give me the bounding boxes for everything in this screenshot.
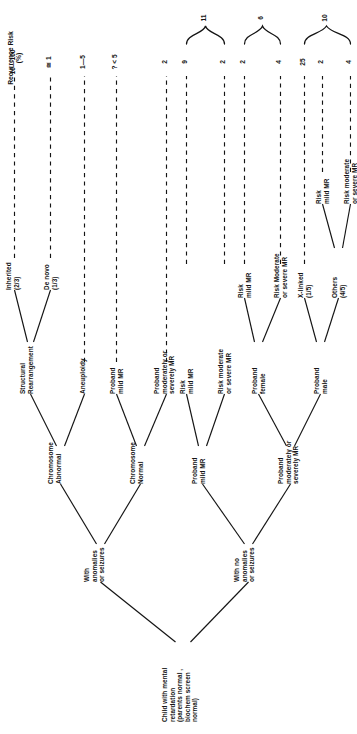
node-de-novo: De novo (1/3) [42,264,57,290]
risk-value-x-linked: 25 [298,58,305,65]
node-risk-mild-mr-1: Risk mild MR [178,369,193,394]
risk-value-de-novo: ≅ 1 [44,56,52,68]
node-root: Child with mental retardation (parents n… [160,668,198,722]
node-aneuploidy: Aneuploidy [78,358,86,394]
risk-value-risk-mod-severe-1: 2 [218,60,225,64]
branch-with-no-anomalies: With no anomalies or seizures [232,547,255,582]
node-proband-moderately-severely-mr-a: Proband moderately or severely MR [152,351,175,394]
node-proband-male: Proband male [312,368,327,394]
node-proband-mild-mr-a: Proband mild MR [108,368,123,394]
brace-total-proband-male: 6 [256,16,263,20]
risk-value-risk-mild-mr-1: 9 [180,60,187,64]
risk-value-inherited: 10—100 [8,50,15,75]
risk-value-aneuploidy: 1—5 [78,55,85,69]
risk-value-risk-mod-severe-2: 4 [274,60,281,64]
node-proband-moderately-severely-mr-b: Proband moderately or severely MR [276,441,299,484]
node-risk-moderate-or-severe-mr-2: Risk Moderate or severe MR [272,253,287,298]
branch-with-anomalies: With anomalies or seizures [82,547,105,582]
node-inherited: Inherited (2/3) [4,262,19,290]
brace-total-proband-female: 11 [199,15,206,22]
risk-value-proband-mod-severe-a: 2 [160,60,167,64]
node-proband-female: Proband female [250,368,265,394]
node-x-linked: X-linked (1/5) [296,273,311,299]
risk-value-risk-mild-mr-3: 2 [316,60,323,64]
node-others: Others (4/5) [330,277,345,298]
risk-value-proband-mild-mr-a: ? < 5 [110,54,117,69]
node-structural-rearrangement: Structural Rearrangement [18,346,33,394]
node-risk-mild-mr-2: Risk mild MR [236,273,251,298]
risk-value-risk-mod-severe-3: 4 [344,60,351,64]
risk-value-risk-mild-mr-2: 2 [238,60,245,64]
node-proband-mild-mr-b: Proband mild MR [190,458,205,484]
node-chromosome-abnormal: Chromosome Abnormal [46,442,61,484]
node-risk-mild-mr-3: Risk mild MR [314,179,329,204]
node-chromosome-normal: Chromosome Normal [128,442,143,484]
node-risk-moderate-or-severe-mr-3: Risk moderate or severe MR [342,159,357,204]
brace-total-others: 10 [320,14,327,21]
node-risk-moderate-or-severe-mr-1: Risk moderate or severe MR [216,349,231,394]
